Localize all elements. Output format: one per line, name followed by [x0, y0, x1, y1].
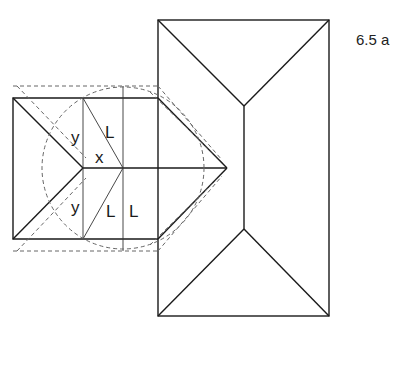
label-L-bottom-diag: L [106, 202, 115, 221]
main-hip-bottom-left [158, 229, 244, 316]
roof-plan-diagram: y L x y L L 6.5 a [0, 0, 406, 376]
hip-dashed-bottom-right [158, 176, 222, 251]
label-y-bottom: y [71, 198, 80, 217]
label-y-top: y [71, 128, 80, 147]
label-L-bottom-vert: L [129, 202, 138, 221]
hip-dashed-top-right [158, 86, 222, 160]
hip-dashed-top-right-2 [150, 92, 224, 164]
label-L-top: L [105, 123, 114, 142]
main-hip-top-left [158, 20, 244, 106]
main-hip-bottom-right [244, 229, 329, 316]
figure-number: 6.5 a [356, 31, 390, 48]
wing-roof [13, 86, 227, 251]
hip-dashed-top-left [17, 86, 86, 158]
label-x: x [95, 148, 104, 167]
rafter-L-bottom [83, 168, 123, 239]
main-hip-top-right [244, 20, 329, 106]
